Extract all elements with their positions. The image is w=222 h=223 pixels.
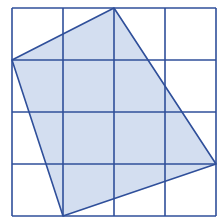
grid-diagram xyxy=(0,0,222,223)
grid-lines xyxy=(12,8,216,216)
